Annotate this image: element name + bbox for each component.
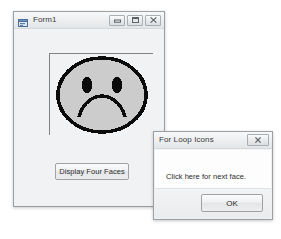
sad-face-icon	[51, 55, 153, 135]
dialog-window-controls	[247, 134, 272, 146]
form-designer-icon	[18, 15, 29, 26]
display-four-faces-button[interactable]: Display Four Faces	[55, 163, 129, 180]
dialog-message-text: Click here for next face.	[166, 172, 246, 181]
main-form-client-area: Display Four Faces	[15, 30, 163, 205]
close-icon[interactable]	[145, 15, 161, 26]
main-form-titlebar[interactable]: Form1	[14, 12, 164, 29]
display-four-faces-label: Display Four Faces	[59, 167, 125, 176]
main-form-title: Form1	[33, 16, 57, 24]
minimize-icon[interactable]	[109, 15, 125, 26]
dialog-title: For Loop Icons	[154, 136, 214, 144]
face-picture-box[interactable]	[49, 53, 153, 135]
main-form-window-controls	[109, 15, 164, 26]
maximize-icon[interactable]	[127, 15, 143, 26]
ok-button-label: OK	[226, 199, 238, 208]
ok-button[interactable]: OK	[201, 194, 263, 212]
dialog-titlebar[interactable]: For Loop Icons	[154, 132, 272, 149]
dialog-client-area: Click here for next face. OK	[155, 150, 271, 218]
close-icon[interactable]	[247, 134, 269, 146]
for-loop-icons-dialog[interactable]: For Loop Icons Click here for next face.…	[153, 131, 273, 220]
main-form-window[interactable]: Form1	[13, 11, 165, 207]
dialog-footer: OK	[155, 188, 271, 218]
